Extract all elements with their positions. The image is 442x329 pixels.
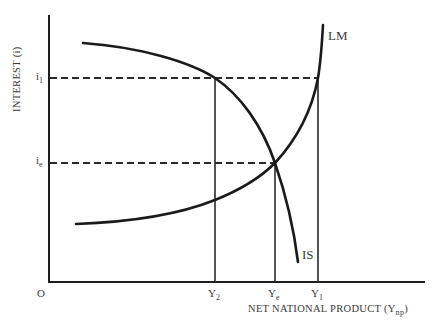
is-curve	[83, 43, 298, 262]
is-lm-diagram	[0, 0, 442, 329]
x-axis-title: NET NATIONAL PRODUCT (Ynp)	[248, 304, 408, 315]
tick-label-ye: Ye	[268, 288, 280, 299]
tick-label-ie: ie	[36, 155, 43, 166]
tick-label-i1: i1	[36, 71, 43, 82]
tick-label-y2: Y2	[208, 288, 220, 299]
y-axis-title: INTEREST (i)	[11, 46, 22, 112]
lm-curve-label: LM	[328, 29, 348, 42]
tick-label-y2-sub: 2	[216, 293, 220, 302]
is-curve-label: IS	[302, 248, 314, 261]
x-axis-title-end: )	[404, 303, 408, 314]
tick-label-i1-sub: 1	[39, 76, 43, 85]
x-axis-title-main: NET NATIONAL PRODUCT (Y	[248, 303, 396, 314]
origin-label: O	[37, 288, 45, 299]
tick-label-ye-sub: e	[276, 293, 280, 302]
x-axis-title-sub: np	[396, 308, 405, 317]
lm-curve	[76, 25, 323, 224]
tick-label-ie-sub: e	[39, 160, 43, 169]
tick-label-y1: Y1	[311, 288, 323, 299]
tick-label-y2-base: Y	[208, 287, 216, 299]
tick-label-y1-sub: 1	[319, 293, 323, 302]
tick-label-ye-base: Y	[268, 287, 276, 299]
tick-label-y1-base: Y	[311, 287, 319, 299]
